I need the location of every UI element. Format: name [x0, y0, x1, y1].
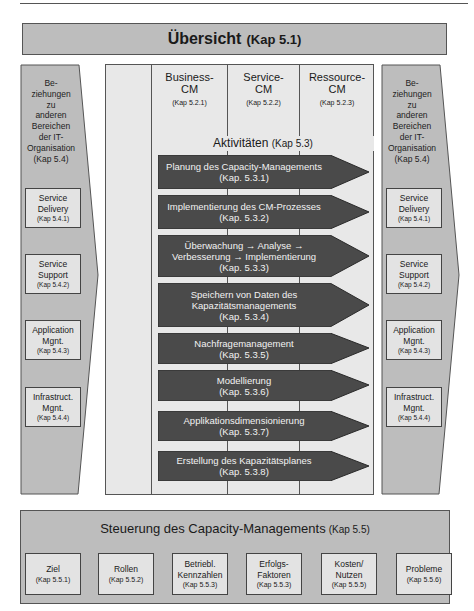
box-service-delivery: ServiceDelivery(Kap 5.4.1): [386, 188, 442, 228]
control-title: Steuerung des Capacity-Managements(Kap 5…: [21, 521, 449, 536]
control-panel: Steuerung des Capacity-Managements(Kap 5…: [20, 510, 450, 604]
box-erfolgsfaktoren: Erfolgs-Faktoren(Kap 5.5.3): [246, 553, 302, 595]
box-ziel: Ziel(Kap 5.5.1): [25, 553, 81, 595]
box-kennzahlen: Betriebl.Kennzahlen(Kap 5.5.3): [172, 553, 228, 595]
activity-arrow-demand-management: Nachfragemanagement(Kap. 5.3.5): [158, 333, 370, 364]
column-divider: [151, 65, 152, 494]
overview-title: Übersicht: [168, 30, 242, 48]
box-service-support: ServiceSupport(Kap 5.4.2): [25, 254, 81, 294]
column-ressource-cm: Ressource-CM(Kap 5.2.3): [300, 71, 374, 109]
activities-title: Aktivitäten (Kap 5.3): [152, 136, 374, 151]
activity-arrow-application-sizing: Applikationsdimensionierung(Kap. 5.3.7): [158, 411, 370, 441]
activity-arrow-modelling: Modellierung(Kap. 5.3.6): [158, 370, 370, 401]
right-relations-panel: Be- ziehungen zu anderen Bereichen der I…: [381, 64, 461, 495]
left-panel-intro: Be- ziehungen zu anderen Bereichen der I…: [20, 78, 82, 164]
activity-arrow-monitoring: Überwachung → Analyse →Verbesserung → Im…: [158, 235, 370, 277]
center-activities-panel: Business-CM(Kap 5.2.1) Service-CM(Kap 5.…: [105, 64, 374, 495]
box-service-support: ServiceSupport(Kap 5.4.2): [386, 254, 442, 294]
page-header-rule: [20, 3, 468, 4]
box-application-mgnt: ApplicationMgnt.(Kap 5.4.3): [25, 320, 81, 360]
activity-arrow-planning: Planung des Capacity-Managements(Kap. 5.…: [158, 155, 370, 189]
overview-title-bar: Übersicht (Kap 5.1): [22, 23, 447, 55]
right-panel-intro: Be- ziehungen zu anderen Bereichen der I…: [381, 78, 443, 164]
box-service-delivery: ServiceDelivery(Kap 5.4.1): [25, 188, 81, 228]
box-rollen: Rollen(Kap 5.5.2): [98, 553, 154, 595]
column-service-cm: Service-CM(Kap 5.2.2): [228, 71, 299, 109]
box-infrastructure-mgnt: Infrastruct.Mgnt.(Kap 5.4.4): [25, 387, 81, 427]
activity-arrow-capacity-plan: Erstellung des Kapazitätsplanes(Kap. 5.3…: [158, 451, 370, 481]
column-business-cm: Business-CM(Kap 5.2.1): [152, 71, 227, 109]
left-relations-panel: Be- ziehungen zu anderen Bereichen der I…: [20, 64, 100, 495]
box-kosten-nutzen: Kosten/Nutzen(Kap 5.5.5): [321, 553, 377, 595]
box-probleme: Probleme(Kap 5.5.6): [396, 553, 452, 595]
activity-arrow-implementation: Implementierung des CM-Prozesses(Kap. 5.…: [158, 195, 370, 229]
activity-arrow-storing-data: Speichern von Daten desKapazitätsmanagem…: [158, 283, 370, 327]
overview-kap: (Kap 5.1): [246, 32, 301, 47]
box-infrastructure-mgnt: Infrastruct.Mgnt.(Kap 5.4.4): [386, 387, 442, 427]
box-application-mgnt: ApplicationMgnt.(Kap 5.4.3): [386, 320, 442, 360]
